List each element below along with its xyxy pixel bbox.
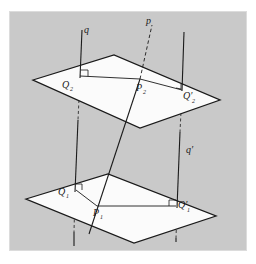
label-point-Q1-subscript: 1 [66,193,69,199]
geometry-diagram: p q q′ Q 2 P 2 Q′ 2 Q 1 P 1 Q′ 1 [0,0,256,264]
label-line-q-prime: q′ [186,144,194,155]
label-line-p: p [145,15,151,26]
label-point-Q2-subscript: 2 [70,86,73,92]
figure-root: p q q′ Q 2 P 2 Q′ 2 Q 1 P 1 Q′ 1 [0,0,256,264]
label-point-Q1-prime-subscript: 1 [187,207,190,213]
label-point-P2-subscript: 2 [143,89,146,95]
label-point-P2: P [135,82,142,93]
label-point-P1: P [92,207,99,218]
line-q-prime-top [182,32,184,91]
label-point-Q2: Q [62,79,70,90]
label-point-Q2-prime-subscript: 2 [192,98,195,104]
line-q-prime-middle [177,132,180,208]
label-point-Q1: Q [58,186,66,197]
line-q-middle [75,120,78,192]
label-point-P1-subscript: 1 [100,214,103,220]
label-line-q: q [84,24,89,35]
